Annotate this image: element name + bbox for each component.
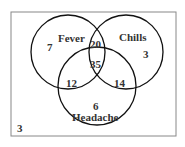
- fever-label: Fever: [58, 32, 85, 44]
- venn-diagram: Fever Chills Headache 7 3 6 20 12 14 35 …: [0, 0, 185, 147]
- all-three-value: 35: [90, 58, 102, 70]
- chills-circle: [89, 15, 163, 89]
- fever-headache-value: 12: [66, 77, 78, 89]
- headache-only-value: 6: [93, 100, 99, 112]
- headache-label: Headache: [72, 111, 119, 123]
- chills-label: Chills: [119, 31, 147, 43]
- fever-chills-value: 20: [90, 38, 102, 50]
- chills-headache-value: 14: [114, 77, 126, 89]
- chills-only-value: 3: [143, 48, 149, 60]
- outside-value: 3: [17, 122, 23, 134]
- fever-only-value: 7: [47, 41, 53, 53]
